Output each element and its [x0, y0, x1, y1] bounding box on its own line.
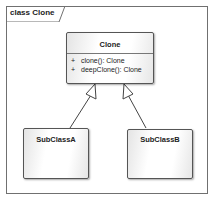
class-subclassa[interactable]: SubClassA [23, 128, 89, 179]
class-name: SubClassA [24, 135, 88, 144]
class-name: Clone [67, 40, 153, 49]
class-clone[interactable]: Clone +clone(): Clone +deepClone(): Clon… [66, 32, 154, 84]
class-name: SubClassB [128, 135, 192, 144]
generalization-subclassb[interactable] [123, 84, 146, 128]
class-subclassb[interactable]: SubClassB [127, 129, 193, 179]
operation-signature: deepClone(): Clone [81, 66, 142, 73]
compartment-divider [67, 53, 153, 54]
operation-clone[interactable]: +clone(): Clone [71, 57, 125, 64]
operation-signature: clone(): Clone [81, 57, 125, 64]
generalization-subclassa[interactable] [70, 84, 96, 128]
visibility-public: + [71, 57, 81, 64]
visibility-public: + [71, 66, 81, 73]
operation-deepclone[interactable]: +deepClone(): Clone [71, 66, 142, 73]
